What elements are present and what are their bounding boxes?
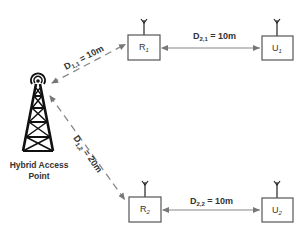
relay-node-r1: R1 xyxy=(128,19,160,60)
user-node-u2: U2 xyxy=(262,181,293,222)
access-point-label-line1: Hybrid Access xyxy=(0,160,78,171)
access-point-label-line2: Point xyxy=(0,171,78,182)
link-label-d22: D2,2 = 10m xyxy=(190,196,233,207)
user-node-u1: U1 xyxy=(262,19,293,60)
link-label-d21: D2,1 = 10m xyxy=(193,31,236,42)
network-diagram: D1,1 = 10m D1,2 = 20m R1 U1 D2,1 = 10m R… xyxy=(0,0,308,235)
access-point-label: Hybrid Access Point xyxy=(0,160,78,182)
relay-node-r2: R2 xyxy=(129,181,161,222)
access-point-tower-icon xyxy=(23,73,53,151)
